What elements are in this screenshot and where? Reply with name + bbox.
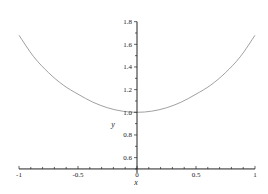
y-axis-label: y [110,120,115,129]
x-tick-label: -0.5 [72,171,84,179]
x-tick-label: 1 [253,171,257,179]
y-tick-label: 0.6 [123,154,132,162]
chart: -1-0.500.510.60.81.01.21.41.61.8 x y [0,0,268,194]
y-tick-label: 0.8 [123,131,132,139]
y-tick-label: 1.4 [123,63,132,71]
y-tick-label: 1.2 [123,86,132,94]
x-axis-label: x [133,178,138,187]
y-tick-label: 1.0 [123,109,132,117]
x-tick-label: -1 [16,171,22,179]
y-tick-label: 1.6 [123,41,132,49]
axes [19,22,255,173]
y-tick-label: 1.8 [123,18,132,26]
x-tick-label: 0.5 [192,171,201,179]
